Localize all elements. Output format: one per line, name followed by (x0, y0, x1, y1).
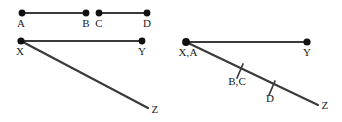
tick-label-d: D (266, 93, 274, 104)
endpoint-dot-xa (182, 38, 190, 46)
point-label-b: B (82, 18, 89, 29)
endpoint-dot-d (144, 10, 151, 17)
point-label-z: Z (152, 104, 159, 115)
segment-xz (21, 41, 148, 108)
endpoint-dot-b (83, 10, 90, 17)
endpoint-dot-c (96, 10, 103, 17)
point-label-xa: X,A (179, 47, 198, 58)
segment-xa-z (186, 42, 318, 105)
endpoint-dot-y (139, 38, 146, 45)
endpoint-dot-y-right (303, 38, 310, 45)
point-label-c: C (95, 18, 102, 29)
tick-label-bc: B,C (228, 76, 246, 87)
figure-root: A B C D X Y Z X,A Y Z B,C D (0, 0, 342, 122)
right-diagram-group (182, 38, 318, 105)
point-label-x: X (16, 46, 24, 57)
point-label-y: Y (138, 46, 146, 57)
point-label-z-right: Z (322, 100, 329, 111)
point-label-d: D (143, 18, 151, 29)
point-label-a: A (17, 18, 25, 29)
endpoint-dot-x (17, 37, 24, 44)
endpoint-dot-a (19, 10, 26, 17)
point-label-y-right: Y (303, 47, 311, 58)
line-segment-figure (0, 0, 342, 122)
